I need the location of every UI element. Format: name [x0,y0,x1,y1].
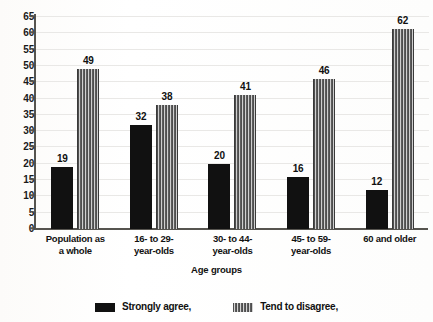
y-axis-tick-label: 5 [0,206,34,217]
y-axis-tick-mark [30,32,34,34]
solid-black-swatch [95,303,115,312]
y-axis-tick-mark [30,227,34,229]
y-axis-tick-label: 35 [0,108,34,119]
y-axis-tick-label: 55 [0,43,34,54]
bar[interactable] [156,105,178,229]
bar-value-label: 12 [371,177,382,187]
x-axis-category-label: Population as a whole [36,233,115,256]
bar-group: 2041 [193,16,272,229]
bar-item[interactable]: 12 [366,16,388,229]
y-axis-tick-mark [30,162,34,164]
bar-value-label: 20 [214,151,225,161]
bar[interactable] [313,79,335,229]
y-axis-tick-mark [30,146,34,148]
bar-value-label: 46 [319,66,330,76]
y-axis-tick-label: 30 [0,125,34,136]
y-axis-tick-mark [30,64,34,66]
bar-value-label: 41 [240,82,251,92]
bar[interactable] [392,29,414,229]
y-axis-tick-label: 0 [0,223,34,234]
y-axis-tick-label: 20 [0,157,34,168]
y-axis-tick-label: 45 [0,76,34,87]
bar-item[interactable]: 16 [287,16,309,229]
y-axis-tick-label: 40 [0,92,34,103]
legend-item[interactable]: Tend to disagree, [233,301,338,313]
bar-value-label: 49 [83,56,94,66]
y-axis-tick-label: 25 [0,141,34,152]
bar-group: 3238 [115,16,194,229]
bar-item[interactable]: 41 [234,16,256,229]
bar-group: 1949 [36,16,115,229]
y-axis-tick-label: 15 [0,174,34,185]
bar[interactable] [77,69,99,229]
x-axis-category-label: 60 and older [350,233,429,256]
striped-gray-swatch [233,303,253,312]
bar-item[interactable]: 38 [156,16,178,229]
y-axis-tick-mark [30,195,34,197]
y-axis-tick-mark [30,113,34,115]
x-axis-category-label: 16- to 29- year-olds [115,233,194,256]
bar-item[interactable]: 20 [208,16,230,229]
bar[interactable] [366,190,388,229]
x-axis-category-label: 30- to 44- year-olds [193,233,272,256]
bar[interactable] [130,125,152,229]
y-axis-tick-mark [30,211,34,213]
bar-group: 1646 [272,16,351,229]
bar[interactable] [234,95,256,229]
y-axis-tick-label: 60 [0,27,34,38]
legend-item[interactable]: Strongly agree, [95,301,191,313]
y-axis-tick-mark [30,178,34,180]
legend-label: Strongly agree, [122,301,191,313]
bar[interactable] [208,164,230,229]
bar-item[interactable]: 19 [51,16,73,229]
legend-label: Tend to disagree, [260,301,338,313]
x-axis-category-labels: Population as a whole16- to 29- year-old… [36,233,429,256]
bar-item[interactable]: 46 [313,16,335,229]
y-axis-tick-mark [30,129,34,131]
x-axis-category-label: 45- to 59- year-olds [272,233,351,256]
bar-item[interactable]: 49 [77,16,99,229]
y-axis-tick-mark [30,97,34,99]
bar[interactable] [51,167,73,229]
bar-value-label: 19 [57,154,68,164]
bar-item[interactable]: 32 [130,16,152,229]
bar-groups: 19493238204116461262 [36,16,429,229]
y-axis-tick-mark [30,80,34,82]
y-axis-tick-mark [30,15,34,17]
bar-value-label: 32 [136,112,147,122]
y-axis-tick-label: 10 [0,190,34,201]
bar-value-label: 62 [397,16,408,26]
bar-chart: 65605550454035302520151050 1949323820411… [0,0,433,322]
y-axis-tick-label: 50 [0,59,34,70]
chart-legend: Strongly agree,Tend to disagree, [0,301,433,313]
y-axis-tick-mark [30,48,34,50]
bar-item[interactable]: 62 [392,16,414,229]
bar-group: 1262 [350,16,429,229]
bar[interactable] [287,177,309,229]
bar-value-label: 16 [293,164,304,174]
bar-value-label: 38 [162,92,173,102]
x-axis-title: Age groups [0,264,433,275]
y-axis-tick-label: 65 [0,11,34,22]
